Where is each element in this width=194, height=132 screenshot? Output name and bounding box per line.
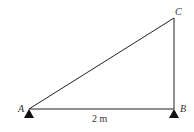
pin-support-b-icon xyxy=(169,109,179,118)
node-label-b: B xyxy=(180,103,186,114)
dimension-label: 2 m xyxy=(92,113,108,124)
node-label-c: C xyxy=(175,6,182,17)
pin-support-a-icon xyxy=(24,109,34,118)
truss-diagram: A B C 2 m xyxy=(0,0,194,132)
node-label-a: A xyxy=(17,103,25,114)
member-ac xyxy=(29,18,174,109)
